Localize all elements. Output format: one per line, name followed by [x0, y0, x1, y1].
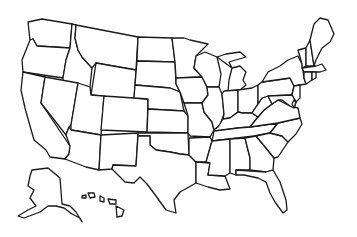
- state-az: [65, 127, 101, 170]
- state-mi: [217, 52, 246, 91]
- state-nm: [99, 133, 138, 170]
- us-states-outline-map: [0, 0, 357, 237]
- state-hi-4: [108, 199, 116, 204]
- state-hi-5: [116, 206, 124, 217]
- state-hi-2: [88, 193, 95, 198]
- state-wy: [91, 63, 136, 100]
- state-ct: [304, 72, 312, 84]
- state-ks: [147, 109, 188, 133]
- state-shapes: [18, 18, 334, 222]
- state-ak: [18, 168, 82, 222]
- state-ri: [312, 72, 316, 80]
- state-me: [310, 18, 334, 66]
- state-co: [101, 96, 148, 132]
- state-hi-1: [82, 195, 86, 198]
- state-nd: [137, 37, 175, 62]
- state-fl: [236, 170, 287, 213]
- state-hi-3: [100, 196, 104, 202]
